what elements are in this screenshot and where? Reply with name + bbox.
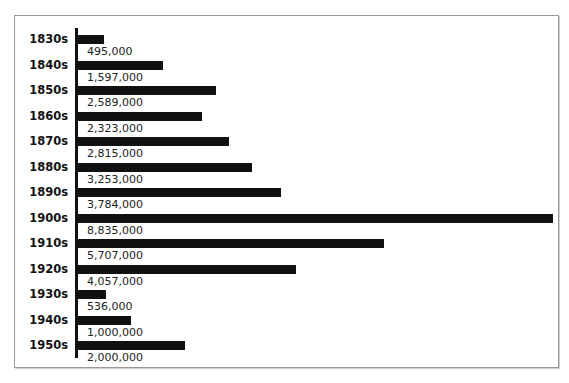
- bar: [77, 239, 384, 248]
- value-label: 495,000: [87, 45, 133, 58]
- value-label: 536,000: [87, 300, 133, 313]
- category-label: 1940s: [18, 313, 68, 327]
- value-label: 1,597,000: [87, 71, 143, 84]
- category-label: 1860s: [18, 109, 68, 123]
- value-label: 1,000,000: [87, 326, 143, 339]
- bar: [77, 86, 216, 95]
- bar: [77, 341, 185, 350]
- bar: [77, 265, 296, 274]
- category-label: 1890s: [18, 185, 68, 199]
- value-label: 2,000,000: [87, 351, 143, 364]
- bar: [77, 290, 106, 299]
- category-label: 1850s: [18, 83, 68, 97]
- value-label: 4,057,000: [87, 275, 143, 288]
- value-label: 3,784,000: [87, 198, 143, 211]
- bar: [77, 214, 553, 223]
- value-label: 3,253,000: [87, 173, 143, 186]
- bar: [77, 188, 281, 197]
- category-label: 1840s: [18, 58, 68, 72]
- value-label: 5,707,000: [87, 249, 143, 262]
- value-label: 2,589,000: [87, 96, 143, 109]
- category-label: 1950s: [18, 338, 68, 352]
- bar: [77, 163, 252, 172]
- category-label: 1910s: [18, 236, 68, 250]
- category-label: 1930s: [18, 287, 68, 301]
- category-label: 1830s: [18, 32, 68, 46]
- category-label: 1870s: [18, 134, 68, 148]
- bar: [77, 61, 163, 70]
- value-label: 8,835,000: [87, 224, 143, 237]
- bar: [77, 316, 131, 325]
- bar: [77, 137, 229, 146]
- value-label: 2,815,000: [87, 147, 143, 160]
- bar: [77, 35, 104, 44]
- category-label: 1920s: [18, 262, 68, 276]
- category-label: 1900s: [18, 211, 68, 225]
- bar: [77, 112, 202, 121]
- value-label: 2,323,000: [87, 122, 143, 135]
- category-label: 1880s: [18, 160, 68, 174]
